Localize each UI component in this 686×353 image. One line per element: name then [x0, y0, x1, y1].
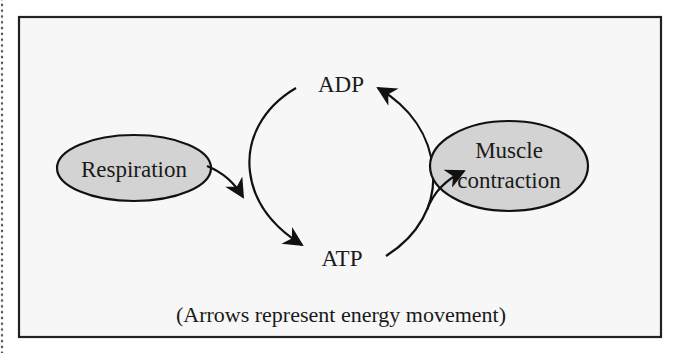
- diagram-caption: (Arrows represent energy movement): [176, 302, 506, 327]
- muscle-contraction-node: [430, 121, 588, 211]
- adp-label: ADP: [318, 72, 364, 97]
- muscle-label-line2: contraction: [457, 168, 561, 193]
- respiration-label: Respiration: [81, 157, 188, 182]
- diagram-canvas: Respiration Muscle contraction ADP ATP (…: [0, 0, 686, 353]
- atp-cycle-diagram: Respiration Muscle contraction ADP ATP (…: [0, 0, 686, 353]
- muscle-label-line1: Muscle: [475, 138, 543, 163]
- atp-label: ATP: [322, 246, 363, 271]
